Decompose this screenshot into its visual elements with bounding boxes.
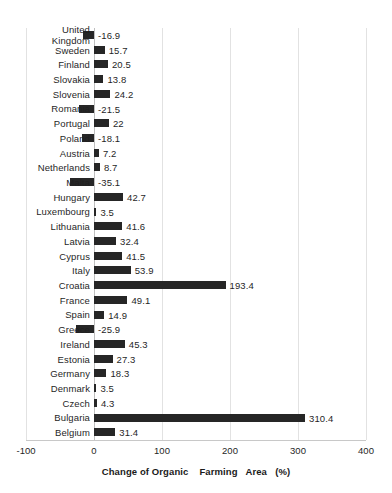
gridline-400 bbox=[366, 28, 367, 440]
bar bbox=[94, 414, 305, 422]
x-tick-label-200: 200 bbox=[222, 444, 238, 458]
category-label: Austria bbox=[0, 148, 90, 159]
category-label: Croatia bbox=[0, 280, 90, 291]
bar-value-label: 8.7 bbox=[104, 160, 118, 175]
category-label: Ireland bbox=[0, 339, 90, 350]
category-label: Germany bbox=[0, 368, 90, 379]
bar bbox=[94, 46, 105, 54]
bar bbox=[94, 340, 125, 348]
x-axis-line bbox=[26, 440, 366, 441]
bar bbox=[94, 237, 116, 245]
bar-value-label: 42.7 bbox=[127, 190, 146, 205]
bar bbox=[94, 119, 109, 127]
bar bbox=[94, 208, 96, 216]
category-label: Czech bbox=[0, 398, 90, 409]
bar bbox=[94, 222, 122, 230]
category-label: Lithuania bbox=[0, 221, 90, 232]
bar bbox=[94, 355, 113, 363]
bar-value-label: 22 bbox=[113, 116, 124, 131]
category-label: Cyprus bbox=[0, 251, 90, 262]
bar bbox=[94, 266, 131, 274]
bar bbox=[94, 311, 104, 319]
bar bbox=[94, 193, 123, 201]
bar-value-label: 310.4 bbox=[309, 411, 333, 426]
bar bbox=[94, 60, 108, 68]
category-label: Hungary bbox=[0, 192, 90, 203]
bar bbox=[94, 296, 127, 304]
category-label: Poland bbox=[0, 133, 90, 144]
bar-value-label: 3.5 bbox=[100, 205, 114, 220]
category-label: Portugal bbox=[0, 118, 90, 129]
category-label: Malta bbox=[0, 177, 90, 188]
bar-value-label: 13.8 bbox=[107, 72, 126, 87]
category-label: United Kingdom bbox=[0, 24, 90, 46]
bar bbox=[94, 428, 115, 436]
bar-value-label: -18.1 bbox=[98, 131, 120, 146]
bar-value-label: 18.3 bbox=[110, 366, 129, 381]
bar-value-label: 20.5 bbox=[112, 57, 131, 72]
bar-value-label: 7.2 bbox=[103, 146, 117, 161]
category-label: France bbox=[0, 295, 90, 306]
bar bbox=[94, 252, 122, 260]
x-tick-label-100: 100 bbox=[154, 444, 170, 458]
bar-value-label: -25.9 bbox=[98, 322, 120, 337]
bar bbox=[94, 384, 96, 392]
category-label: Belgium bbox=[0, 427, 90, 438]
bar bbox=[94, 369, 106, 377]
x-tick-label-300: 300 bbox=[290, 444, 306, 458]
bar-chart: -16.915.720.513.824.2-21.522-18.17.28.7-… bbox=[0, 0, 392, 493]
category-label: Greece bbox=[0, 324, 90, 335]
bar-value-label: 49.1 bbox=[131, 293, 150, 308]
bar bbox=[94, 75, 103, 83]
bar bbox=[94, 163, 100, 171]
bar bbox=[94, 399, 97, 407]
x-tick-label-400: 400 bbox=[358, 444, 374, 458]
bar-value-label: 53.9 bbox=[135, 263, 154, 278]
bar bbox=[94, 149, 99, 157]
category-axis-labels: United KingdomSwedenFinlandSlovakiaSlove… bbox=[0, 28, 90, 440]
x-axis-title: Change of Organic Farming Area (%) bbox=[0, 466, 392, 477]
bar-value-label: 31.4 bbox=[119, 425, 138, 440]
category-label: Denmark bbox=[0, 383, 90, 394]
category-label: Spain bbox=[0, 309, 90, 320]
bar-value-label: 45.3 bbox=[129, 337, 148, 352]
bar-value-label: 27.3 bbox=[117, 352, 136, 367]
x-tick-label--100: -100 bbox=[16, 444, 35, 458]
x-tick-label-0: 0 bbox=[91, 444, 96, 458]
bar-value-label: -16.9 bbox=[98, 28, 120, 43]
bar bbox=[94, 281, 226, 289]
category-label: Romania bbox=[0, 103, 90, 114]
bar-value-label: 193.4 bbox=[230, 278, 254, 293]
bar-value-label: 4.3 bbox=[101, 396, 115, 411]
bar-value-label: 32.4 bbox=[120, 234, 139, 249]
bar-value-label: -35.1 bbox=[98, 175, 120, 190]
x-axis-tick-labels: -1000100200300400 bbox=[0, 444, 392, 460]
category-label: Luxembourg bbox=[0, 206, 90, 217]
bar-value-label: 41.5 bbox=[126, 249, 145, 264]
category-label: Italy bbox=[0, 265, 90, 276]
category-label: Latvia bbox=[0, 236, 90, 247]
category-label: Finland bbox=[0, 59, 90, 70]
bar-value-label: -21.5 bbox=[98, 102, 120, 117]
category-label: Slovenia bbox=[0, 89, 90, 100]
bar-value-label: 15.7 bbox=[109, 43, 128, 58]
category-label: Estonia bbox=[0, 354, 90, 365]
category-label: Sweden bbox=[0, 45, 90, 56]
bar-value-label: 41.6 bbox=[126, 219, 145, 234]
bar bbox=[94, 90, 110, 98]
bar-value-label: 24.2 bbox=[114, 87, 133, 102]
category-label: Netherlands bbox=[0, 162, 90, 173]
bar-value-label: 14.9 bbox=[108, 308, 127, 323]
category-label: Slovakia bbox=[0, 74, 90, 85]
category-label: Bulgaria bbox=[0, 412, 90, 423]
bar-value-label: 3.5 bbox=[100, 381, 114, 396]
